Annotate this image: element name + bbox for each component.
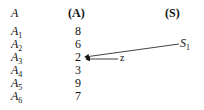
- pointer-z-label: z: [120, 52, 124, 63]
- s1-arrow: [85, 44, 179, 57]
- pointer-s1-label: S1: [180, 36, 190, 52]
- pointer-arrows: [0, 0, 204, 110]
